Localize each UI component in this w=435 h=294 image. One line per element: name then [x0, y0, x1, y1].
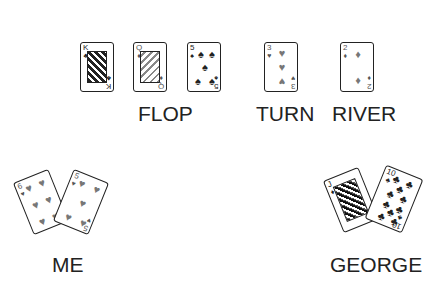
jack-face-art [333, 178, 369, 222]
diamond-icon: ♦ [343, 52, 347, 60]
george-card-2: 10♣ ♣ ♣ ♣ ♣ ♣ ♣ ♣ ♣ ♣ ♣ 10♣ [365, 165, 424, 234]
heart-icon: ♥ [92, 184, 102, 197]
flop-card-1: K♣ K♣ [80, 42, 114, 92]
spade-icon: ♠ [198, 49, 204, 60]
flop-card-2: Q♦ Q♦ [133, 42, 167, 92]
spade-icon: ♠ [195, 76, 201, 87]
diamond-icon: ♦ [355, 49, 361, 60]
diamond-icon: ♦ [158, 74, 164, 82]
heart-icon: ♥ [291, 74, 295, 82]
heart-icon: ♥ [279, 76, 286, 87]
heart-icon: ♥ [37, 177, 47, 190]
heart-icon: ♥ [279, 62, 286, 73]
heart-icon: ♥ [31, 199, 41, 212]
turn-label: TURN [256, 102, 314, 126]
spade-icon: ♠ [190, 52, 194, 60]
club-icon: ♣ [106, 74, 111, 82]
king-face-art [87, 51, 107, 83]
diamond-icon: ♦ [355, 75, 361, 86]
flop-card-3: 5♠ ♠ ♠ ♠ ♠ ♠ 5♠ [187, 42, 221, 92]
turn-card: 3♥ ♥ ♥ ♥ 3♥ [264, 42, 298, 92]
me-label: ME [52, 253, 84, 277]
river-card: 2♦ ♦ ♦ 2♦ [340, 42, 374, 92]
heart-icon: ♥ [24, 182, 34, 195]
heart-icon: ♥ [19, 190, 26, 199]
heart-icon: ♥ [77, 197, 87, 210]
club-icon: ♣ [376, 210, 387, 223]
club-icon: ♣ [404, 178, 415, 191]
spade-icon: ♠ [202, 62, 208, 73]
me-card-2: 5♥ ♥ ♥ ♥ ♥ ♥ 5♥ [53, 169, 109, 235]
george-label: GEORGE [330, 253, 422, 277]
heart-icon: ♥ [44, 194, 54, 207]
heart-icon: ♥ [267, 52, 271, 60]
queen-face-art [140, 51, 160, 83]
flop-label: FLOP [138, 102, 193, 126]
spade-icon: ♠ [209, 49, 215, 60]
river-label: RIVER [332, 102, 396, 126]
heart-icon: ♥ [37, 216, 47, 229]
spade-icon: ♠ [214, 74, 218, 82]
heart-icon: ♥ [63, 211, 73, 224]
heart-icon: ♥ [77, 178, 87, 191]
diamond-icon: ♦ [367, 74, 371, 82]
heart-icon: ♥ [279, 48, 286, 59]
